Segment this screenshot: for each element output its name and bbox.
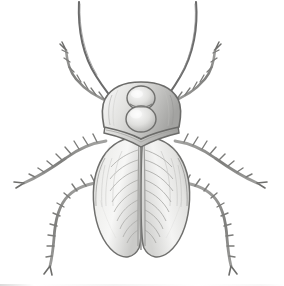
pronotum-marking xyxy=(126,86,156,132)
elytra-suture xyxy=(140,138,141,250)
beetle-drawing-canvas xyxy=(0,0,284,286)
pronotum-marking-lower-lobe xyxy=(126,106,156,132)
beetle-illustration xyxy=(0,0,284,286)
